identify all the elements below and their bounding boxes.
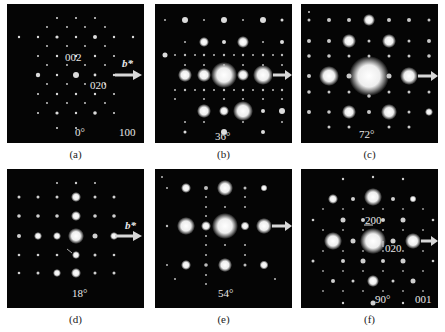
b-star-arrow — [418, 71, 438, 81]
tilt-angle-label: 72° — [359, 128, 374, 140]
diffraction-panel-f: 200 020 90° 001 — [301, 169, 438, 308]
zone-axis-label: 100 — [119, 126, 136, 138]
diffraction-panel-b: 36° — [155, 4, 292, 143]
diffraction-pattern-a — [7, 4, 144, 143]
diffraction-panel-e: 54° — [155, 169, 292, 308]
diffraction-pattern-b — [155, 4, 292, 143]
b-star-label: b* — [122, 57, 133, 69]
tilt-angle-label: 90° — [375, 293, 390, 305]
diffraction-panel-d: b* 18° — [7, 169, 144, 308]
b-star-arrow — [115, 231, 142, 241]
spot-label-020: 020 — [385, 242, 402, 254]
zone-axis-label: 001 — [415, 293, 432, 305]
spot-label-200: 200 — [365, 214, 382, 226]
b-star-arrow — [421, 236, 438, 246]
caption-e: (e) — [155, 313, 292, 325]
caption-b: (b) — [155, 148, 292, 160]
tilt-angle-label: 54° — [218, 287, 233, 299]
diffraction-panel-c: 72° — [301, 4, 438, 143]
diffraction-panel-a: 002 020 b* 0° 100 — [7, 4, 144, 143]
b-star-arrow — [115, 70, 142, 80]
caption-f: (f) — [301, 313, 438, 325]
b-star-arrow — [272, 221, 292, 231]
caption-c: (c) — [301, 148, 438, 160]
caption-a: (a) — [7, 148, 144, 160]
spot-label-002: 002 — [65, 51, 82, 63]
spot-label-020: 020 — [90, 79, 107, 91]
tilt-angle-label: 0° — [75, 126, 85, 138]
b-star-arrow — [273, 70, 292, 80]
tilt-angle-label: 18° — [72, 287, 87, 299]
diffraction-pattern-f — [301, 169, 438, 308]
tilt-angle-label: 36° — [215, 130, 230, 142]
b-star-label: b* — [125, 219, 136, 231]
diffraction-pattern-c — [301, 4, 438, 143]
caption-d: (d) — [7, 313, 144, 325]
